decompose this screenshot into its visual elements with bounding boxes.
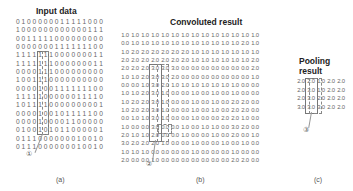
input-row: 0000111000000000 bbox=[15, 68, 104, 76]
pool-cell: 2.0 bbox=[326, 86, 336, 95]
conv-cell: 2.0 bbox=[130, 48, 140, 56]
conv-cell: 0.0 bbox=[160, 148, 170, 156]
conv-cell: 1.0 bbox=[250, 73, 260, 81]
conv-row: 1.02.02.02.02.02.02.01.01.01.01.01.01.01… bbox=[120, 48, 260, 56]
conv-cell: 1.0 bbox=[130, 114, 140, 122]
conv-row: 1.01.02.03.03.02.00.00.00.00.00.00.00.01… bbox=[120, 73, 260, 81]
input-row: 0100101011000001 bbox=[15, 126, 104, 134]
conv-cell: 1.0 bbox=[190, 148, 200, 156]
conv-cell: 0.0 bbox=[220, 156, 230, 164]
conv-cell: 0.0 bbox=[180, 64, 190, 72]
input-cell: 1 bbox=[98, 51, 104, 59]
conv-cell: 1.0 bbox=[160, 31, 170, 39]
conv-cell: 0.0 bbox=[220, 73, 230, 81]
caption-c: (c) bbox=[314, 176, 322, 183]
conv-cell: 1.0 bbox=[240, 31, 250, 39]
marker-3: ③ bbox=[303, 126, 309, 134]
conv-cell: 1.0 bbox=[190, 56, 200, 64]
input-cell: 0 bbox=[98, 85, 104, 93]
pool-cell: 2.0 bbox=[336, 77, 346, 86]
conv-cell: 0.0 bbox=[200, 73, 210, 81]
conv-cell: 1.0 bbox=[130, 39, 140, 47]
conv-cell: 0.0 bbox=[200, 139, 210, 147]
caption-b: (b) bbox=[196, 176, 205, 183]
conv-cell: 1.0 bbox=[210, 81, 220, 89]
conv-cell: 0.0 bbox=[200, 148, 210, 156]
conv-cell: 1.0 bbox=[220, 31, 230, 39]
conv-cell: 1.0 bbox=[200, 39, 210, 47]
conv-cell: 1.0 bbox=[230, 56, 240, 64]
input-cell: 1 bbox=[98, 101, 104, 109]
input-cell: 0 bbox=[98, 110, 104, 118]
conv-cell: 0.0 bbox=[170, 114, 180, 122]
conv-row: 2.02.02.02.02.02.02.01.01.01.01.01.01.02… bbox=[120, 56, 260, 64]
conv-cell: 1.0 bbox=[210, 98, 220, 106]
input-cell: 1 bbox=[98, 126, 104, 134]
conv-cell: 1.0 bbox=[240, 139, 250, 147]
input-cell: 0 bbox=[98, 18, 104, 26]
conv-cell: 0.0 bbox=[240, 131, 250, 139]
conv-cell: 0.0 bbox=[180, 89, 190, 97]
conv-cell: 0.0 bbox=[200, 156, 210, 164]
conv-cell: 1.0 bbox=[210, 56, 220, 64]
marker-2: ② bbox=[146, 160, 152, 168]
conv-cell: 1.0 bbox=[120, 48, 130, 56]
conv-cell: 1.0 bbox=[140, 148, 150, 156]
conv-cell: 2.0 bbox=[170, 48, 180, 56]
conv-cell: 1.0 bbox=[230, 39, 240, 47]
conv-cell: 2.0 bbox=[170, 73, 180, 81]
conv-cell: 1.0 bbox=[210, 31, 220, 39]
conv-cell: 1.0 bbox=[200, 56, 210, 64]
conv-cell: 1.0 bbox=[240, 114, 250, 122]
conv-cell: 3.0 bbox=[120, 139, 130, 147]
conv-max-cell-box bbox=[158, 124, 172, 134]
conv-cell: 1.0 bbox=[190, 31, 200, 39]
conv-row: 1.01.01.01.01.01.01.01.01.01.01.01.01.01… bbox=[120, 31, 260, 39]
conv-cell: 1.0 bbox=[190, 89, 200, 97]
input-cell: 1 bbox=[98, 60, 104, 68]
conv-cell: 1.0 bbox=[180, 131, 190, 139]
conv-cell: 0.0 bbox=[190, 131, 200, 139]
conv-cell: 0.0 bbox=[180, 139, 190, 147]
conv-cell: 0.0 bbox=[250, 98, 260, 106]
conv-cell: 1.0 bbox=[210, 123, 220, 131]
conv-cell: 0.0 bbox=[220, 148, 230, 156]
input-row: 0000100101111100 bbox=[15, 110, 104, 118]
conv-cell: 1.0 bbox=[190, 114, 200, 122]
conv-cell: 2.0 bbox=[120, 156, 130, 164]
conv-cell: 0.0 bbox=[190, 64, 200, 72]
conv-cell: 0.0 bbox=[220, 98, 230, 106]
conv-cell: 0.0 bbox=[230, 64, 240, 72]
conv-cell: 0.0 bbox=[120, 39, 130, 47]
conv-cell: 0.0 bbox=[210, 139, 220, 147]
conv-cell: 1.0 bbox=[210, 89, 220, 97]
input-row: 1011110000000001 bbox=[15, 101, 104, 109]
conv-cell: 0.0 bbox=[250, 89, 260, 97]
conv-cell: 2.0 bbox=[230, 156, 240, 164]
conv-cell: 2.0 bbox=[180, 56, 190, 64]
conv-cell: 0.0 bbox=[240, 148, 250, 156]
conv-cell: 0.0 bbox=[180, 114, 190, 122]
conv-cell: 1.0 bbox=[130, 131, 140, 139]
conv-cell: 1.0 bbox=[130, 73, 140, 81]
conv-cell: 2.0 bbox=[120, 131, 130, 139]
input-cell: 0 bbox=[98, 135, 104, 143]
input-cell: 0 bbox=[98, 93, 104, 101]
conv-cell: 1.0 bbox=[120, 31, 130, 39]
conv-cell: 0.0 bbox=[250, 123, 260, 131]
conv-cell: 0.0 bbox=[150, 148, 160, 156]
conv-cell: 2.0 bbox=[240, 156, 250, 164]
conv-row: 1.02.02.03.01.00.00.01.00.01.00.02.02.00… bbox=[120, 106, 260, 114]
conv-row: 1.02.02.03.01.00.00.01.00.01.00.02.02.00… bbox=[120, 98, 260, 106]
conv-cell: 0.0 bbox=[130, 156, 140, 164]
conv-cell: 1.0 bbox=[130, 89, 140, 97]
conv-cell: 1.0 bbox=[120, 148, 130, 156]
input-cell: 0 bbox=[98, 143, 104, 151]
conv-cell: 0.0 bbox=[230, 73, 240, 81]
conv-cell: 2.0 bbox=[230, 114, 240, 122]
conv-cell: 1.0 bbox=[180, 81, 190, 89]
conv-cell: 2.0 bbox=[130, 64, 140, 72]
pooling-result-title-line2: result bbox=[299, 66, 322, 76]
conv-cell: 1.0 bbox=[240, 48, 250, 56]
input-row: 0011111000000000 bbox=[15, 35, 104, 43]
